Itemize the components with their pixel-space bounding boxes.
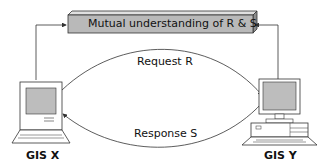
gis-x-label: GIS X bbox=[26, 149, 59, 162]
gis-y-label: GIS Y bbox=[264, 149, 297, 162]
request-label: Request R bbox=[137, 55, 193, 68]
response-arrow bbox=[63, 103, 262, 147]
response-label: Response S bbox=[134, 127, 197, 140]
shared-understanding-label: Mutual understanding of R & S bbox=[88, 17, 257, 30]
gis-x-computer-icon bbox=[12, 82, 70, 143]
connector-x-to-box bbox=[36, 25, 66, 80]
connector-y-to-box bbox=[255, 25, 278, 82]
